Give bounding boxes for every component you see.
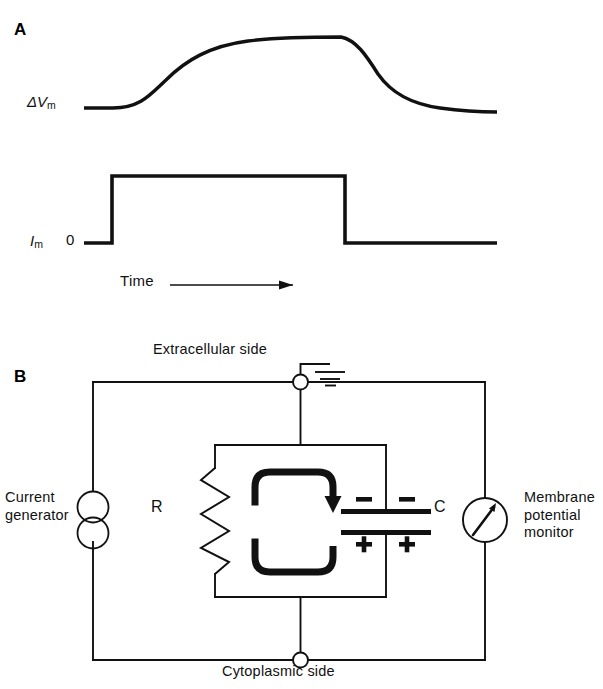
node-cytoplasmic <box>293 653 308 668</box>
capacitor-plus-sign-right <box>399 536 415 552</box>
figure-container: A ΔVm Im 0 Time B Extracellular side Cyt… <box>0 0 603 689</box>
capacitor-minus-sign-left <box>356 497 372 502</box>
capacitor-symbol <box>341 512 431 533</box>
voltage-trace <box>84 37 497 112</box>
current-trace <box>84 176 497 243</box>
node-extracellular <box>293 375 308 390</box>
panel-a-traces <box>0 0 603 310</box>
current-flow-loop-arrow-icon <box>255 472 342 572</box>
panel-b-circuit <box>0 350 603 689</box>
time-arrow-icon <box>170 281 293 290</box>
capacitor-plus-sign-left <box>356 536 372 552</box>
capacitor-minus-sign-right <box>399 497 415 502</box>
resistor-symbol <box>201 468 229 574</box>
